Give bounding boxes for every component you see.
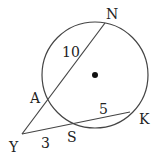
label-n: N — [106, 6, 118, 22]
length-ys: 3 — [41, 135, 50, 151]
center-dot — [92, 72, 98, 78]
label-a: A — [29, 90, 41, 106]
geometry-diagram: N A Y S K 10 5 3 — [0, 0, 157, 161]
length-sk: 5 — [99, 101, 108, 117]
label-k: K — [139, 111, 150, 127]
label-y: Y — [8, 139, 19, 155]
length-an: 10 — [62, 44, 80, 60]
label-s: S — [67, 129, 77, 145]
